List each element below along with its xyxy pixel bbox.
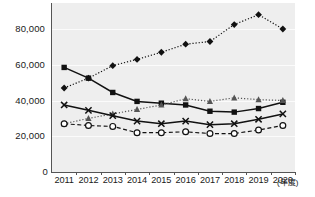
data-point-marker: [61, 65, 66, 70]
data-point-marker: [207, 131, 213, 137]
data-point-marker: [183, 102, 188, 107]
data-point-marker: [158, 49, 165, 56]
data-point-marker: [232, 109, 237, 114]
data-point-marker: [256, 127, 262, 133]
data-point-marker: [86, 123, 92, 129]
data-point-marker: [61, 121, 67, 127]
data-point-marker: [109, 62, 116, 69]
data-point-marker: [134, 99, 139, 104]
data-point-marker: [61, 85, 68, 92]
series-line: [64, 67, 283, 112]
series-line: [64, 124, 283, 134]
data-point-marker: [134, 56, 141, 63]
data-point-marker: [182, 41, 189, 48]
line-chart: 020,00040,00060,00080,000 20112012201320…: [0, 0, 315, 197]
data-point-marker: [110, 124, 116, 130]
data-point-marker: [256, 106, 261, 111]
series-circle-series: [61, 121, 286, 137]
data-point-marker: [255, 11, 262, 18]
series-x-series: [61, 102, 286, 128]
series-line: [64, 105, 283, 125]
series-layer: [0, 0, 315, 197]
data-point-marker: [158, 130, 164, 136]
series-line: [64, 15, 283, 88]
data-point-marker: [134, 106, 140, 112]
data-point-marker: [134, 130, 140, 136]
data-point-marker: [255, 96, 261, 102]
data-point-marker: [183, 95, 189, 101]
data-point-marker: [207, 38, 214, 45]
data-point-marker: [85, 115, 91, 121]
series-diamond-series: [61, 11, 287, 91]
series-square-series: [61, 65, 285, 115]
data-point-marker: [207, 109, 212, 114]
data-point-marker: [86, 75, 91, 80]
data-point-marker: [231, 94, 237, 100]
data-point-marker: [231, 131, 237, 137]
series-triangle-series: [61, 94, 286, 126]
data-point-marker: [279, 26, 286, 33]
data-point-marker: [183, 129, 189, 135]
series-line: [64, 98, 283, 124]
data-point-marker: [280, 123, 286, 129]
data-point-marker: [110, 90, 115, 95]
